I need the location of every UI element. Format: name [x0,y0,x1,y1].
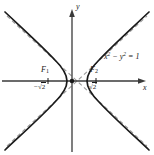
equation-annotation: x2 − y2 = 1 [104,52,139,61]
focus-2-label: F2 [90,66,98,74]
x-axis-label: x [143,84,147,92]
origin-marker [70,79,75,84]
focus-2-subscript: 2 [95,68,98,74]
tick-label-sqrt2: √2 [89,84,97,91]
y-axis-label: y [76,3,80,11]
hyperbola-figure: y x F1 −√2 F2 √2 x2 − y2 = 1 [0,0,154,155]
radicand-right: 2 [92,82,97,91]
radicand-left: 2 [41,82,46,91]
hyperbola-plot [0,0,154,155]
focus-1-subscript: 1 [46,68,49,74]
tick-label-neg-sqrt2: −√2 [34,84,46,91]
equation-operator: − [110,52,119,61]
y-axis-arrowhead [69,9,75,17]
equation-equals-one: = 1 [126,52,139,61]
focus-1-label: F1 [41,66,49,74]
